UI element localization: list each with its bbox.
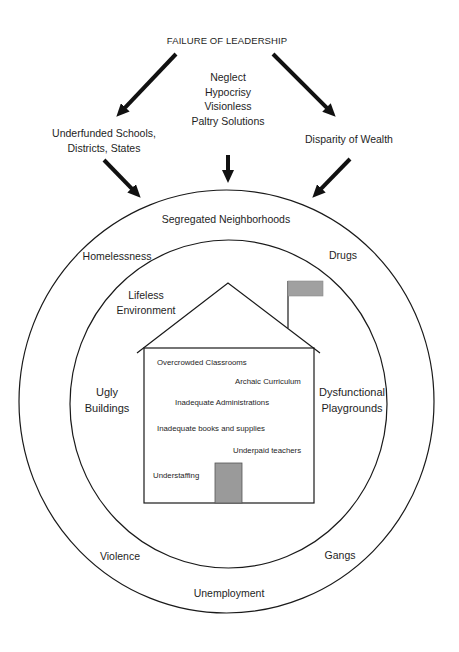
- gangs-label: Gangs: [325, 550, 356, 561]
- arrow-leadership-to-underfunded: [124, 54, 176, 109]
- dysfunctional-line-1: Dysfunctional: [319, 385, 385, 401]
- school-item-inadequate-administrations: Inadequate Administrations: [175, 399, 269, 407]
- failure-neglect: Neglect: [210, 70, 246, 85]
- school-item-underpaid-teachers: Underpaid teachers: [233, 447, 301, 455]
- lifeless-environment-label: Lifeless Environment: [117, 288, 176, 317]
- failure-hypocrisy: Hypocrisy: [205, 85, 251, 100]
- segregated-neighborhoods-label: Segregated Neighborhoods: [162, 214, 290, 225]
- underfunded-line-1: Underfunded Schools,: [52, 126, 156, 141]
- leadership-failures-list: Neglect Hypocrisy Visionless Paltry Solu…: [192, 70, 265, 128]
- school-item-inadequate-books: Inadequate books and supplies: [157, 425, 265, 433]
- ugly-line-1: Ugly: [96, 385, 118, 401]
- failure-paltry-solutions: Paltry Solutions: [192, 114, 265, 129]
- diagram-title: FAILURE OF LEADERSHIP: [167, 36, 287, 46]
- school-item-archaic-curriculum: Archaic Curriculum: [235, 378, 301, 386]
- dysfunctional-playgrounds-label: Dysfunctional Playgrounds: [319, 385, 385, 416]
- dysfunctional-line-2: Playgrounds: [321, 400, 382, 416]
- ugly-buildings-label: Ugly Buildings: [85, 385, 130, 416]
- underfunded-label: Underfunded Schools, Districts, States: [52, 126, 156, 155]
- disparity-of-wealth-label: Disparity of Wealth: [305, 134, 393, 145]
- school-item-overcrowded-classrooms: Overcrowded Classrooms: [157, 359, 247, 367]
- arrow-leadership-to-disparity: [273, 54, 328, 109]
- school-item-understaffing: Understaffing: [153, 472, 199, 480]
- ugly-line-2: Buildings: [85, 400, 130, 416]
- house-door: [215, 463, 242, 503]
- failure-visionless: Visionless: [204, 99, 251, 114]
- arrow-disparity-to-circle: [320, 159, 350, 190]
- violence-label: Violence: [100, 551, 140, 562]
- lifeless-line-1: Lifeless: [128, 288, 164, 303]
- drugs-label: Drugs: [329, 250, 357, 261]
- flag: [288, 281, 323, 296]
- diagram-canvas: FAILURE OF LEADERSHIP Neglect Hypocrisy …: [0, 0, 459, 652]
- unemployment-label: Unemployment: [194, 588, 265, 599]
- lifeless-line-2: Environment: [117, 302, 176, 317]
- homelessness-label: Homelessness: [83, 251, 152, 262]
- underfunded-line-2: Districts, States: [68, 140, 141, 155]
- arrow-underfunded-to-circle: [104, 160, 133, 190]
